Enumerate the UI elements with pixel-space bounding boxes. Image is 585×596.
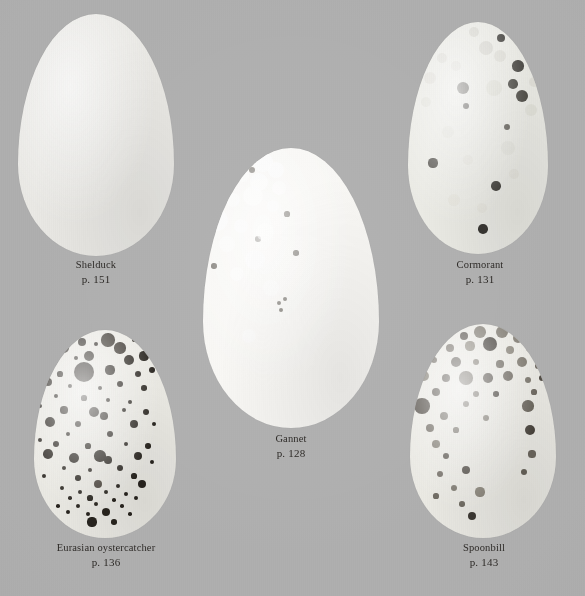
egg-spot — [426, 424, 435, 433]
egg-spot — [442, 374, 451, 383]
egg-spot — [473, 359, 479, 365]
egg-spot — [517, 357, 527, 367]
egg-spot — [475, 487, 484, 496]
egg-spot — [451, 485, 458, 492]
egg-spot — [513, 333, 523, 343]
egg-spot — [503, 371, 514, 382]
egg-spot — [433, 493, 438, 498]
egg-page-reference: p. 143 — [400, 555, 568, 570]
egg-spot — [468, 512, 476, 520]
egg-spot — [496, 360, 503, 367]
egg-spot — [528, 450, 535, 457]
egg-spot — [506, 346, 515, 355]
egg-spot — [437, 471, 443, 477]
egg-spot — [414, 398, 430, 414]
egg-plate: Shelduckp. 151Gannetp. 128Cormorantp. 13… — [0, 0, 585, 596]
egg-group-spoonbill: Spoonbillp. 143 — [0, 0, 585, 596]
egg-spot — [483, 373, 493, 383]
egg-spot — [493, 391, 499, 397]
egg-spot — [460, 332, 468, 340]
egg-spot — [539, 375, 546, 382]
egg-spot — [535, 363, 542, 370]
egg-spot — [522, 400, 533, 411]
egg-spot — [473, 391, 480, 398]
egg-spot — [440, 412, 448, 420]
egg-spot — [525, 377, 531, 383]
egg-spot — [431, 357, 437, 363]
egg-spot — [432, 440, 440, 448]
egg-spot — [446, 344, 454, 352]
egg-spot — [496, 326, 509, 339]
egg-shell-spoonbill — [410, 324, 556, 538]
egg-spot — [483, 337, 497, 351]
egg-caption-spoonbill: Spoonbillp. 143 — [400, 541, 568, 569]
egg-spot — [453, 427, 458, 432]
egg-spot — [465, 341, 474, 350]
egg-spot — [459, 371, 472, 384]
egg-spot — [526, 344, 534, 352]
egg-spot — [459, 501, 465, 507]
egg-spot — [483, 415, 489, 421]
egg-spot — [451, 357, 461, 367]
egg-spot — [463, 401, 469, 407]
egg-spot — [462, 466, 471, 475]
egg-spot — [432, 388, 440, 396]
egg-spot — [443, 453, 449, 459]
egg-spot — [474, 326, 486, 338]
egg-species-name: Spoonbill — [400, 541, 568, 555]
egg-spot — [419, 371, 429, 381]
egg-spot — [525, 425, 535, 435]
egg-spot — [521, 469, 528, 476]
egg-spot — [531, 389, 536, 394]
